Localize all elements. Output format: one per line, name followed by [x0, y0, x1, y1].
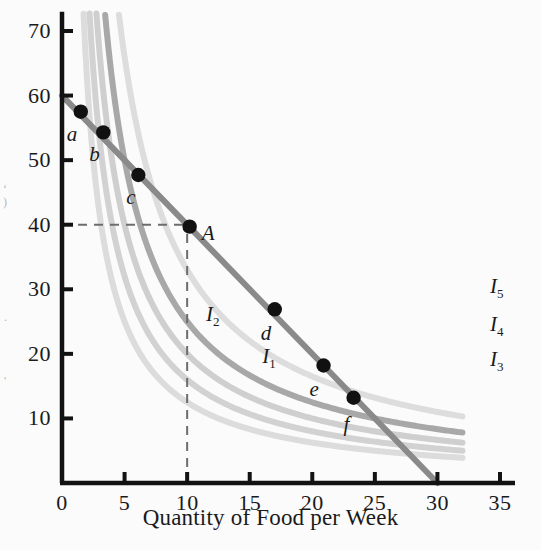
point-label-b: b: [89, 144, 100, 165]
point-label-d: d: [261, 323, 272, 344]
data-point-A: [182, 219, 196, 233]
point-label-e: e: [310, 379, 319, 400]
data-point-d: [268, 302, 282, 316]
point-label-A: A: [202, 223, 215, 244]
indifference-curve-I5: [119, 15, 463, 417]
curve-label-I1: I1: [262, 346, 276, 370]
y-tick-label-10: 10: [5, 407, 51, 429]
data-point-a: [74, 105, 88, 119]
y-tick-label-40: 40: [5, 214, 51, 236]
y-tick-label-70: 70: [5, 20, 51, 42]
indifference-curve-I1: [84, 14, 463, 458]
budget-line: [62, 96, 437, 483]
point-label-f: f: [344, 414, 350, 435]
chart-canvas: [0, 0, 541, 550]
point-label-a: a: [67, 124, 78, 145]
y-tick-label-20: 20: [5, 343, 51, 365]
curve-label-I2: I2: [206, 304, 220, 328]
cropped-ylabel-mark-3: .: [4, 311, 7, 323]
data-point-e: [316, 358, 330, 372]
budget-line-layer: [62, 96, 437, 483]
cropped-ylabel-mark-1: ‘: [3, 183, 7, 195]
curve-label-I5: I5: [490, 276, 504, 300]
curve-label-I4: I4: [490, 314, 504, 338]
curve-label-I3: I3: [490, 349, 504, 373]
cropped-ylabel-mark-2: ): [3, 196, 7, 208]
indifference-curves-layer: [84, 13, 463, 457]
data-point-b: [96, 125, 110, 139]
guide-lines-layer: [62, 225, 190, 483]
indifference-curve-I3: [96, 13, 462, 442]
cropped-ylabel-mark-4: ': [4, 375, 6, 387]
y-tick-label-30: 30: [5, 278, 51, 300]
data-point-c: [131, 168, 145, 182]
y-tick-label-60: 60: [5, 85, 51, 107]
x-axis-title: Quantity of Food per Week: [0, 505, 541, 531]
point-label-c: c: [126, 187, 135, 208]
indifference-curve-figure: 10203040506070 05101520253035 abcAdef I1…: [0, 0, 541, 550]
data-point-f: [346, 391, 360, 405]
y-tick-label-50: 50: [5, 149, 51, 171]
